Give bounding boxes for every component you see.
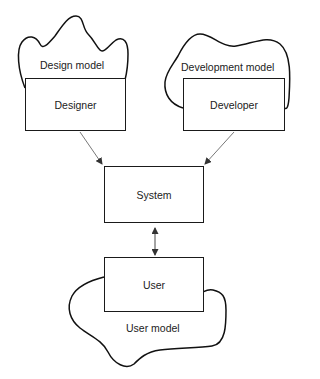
system-box: System: [104, 166, 204, 223]
designer-box: Designer: [25, 78, 126, 131]
designer-label: Designer: [54, 99, 96, 111]
user-model-label: User model: [126, 322, 180, 334]
arrow-designer-to-system: [80, 132, 102, 164]
developer-box: Developer: [183, 78, 285, 131]
design-model-label: Design model: [40, 59, 104, 71]
developer-label: Developer: [210, 99, 258, 111]
user-box: User: [104, 257, 204, 312]
user-label: User: [143, 279, 165, 291]
arrow-developer-to-system: [205, 132, 234, 164]
system-label: System: [136, 189, 171, 201]
development-model-label: Development model: [181, 61, 274, 73]
